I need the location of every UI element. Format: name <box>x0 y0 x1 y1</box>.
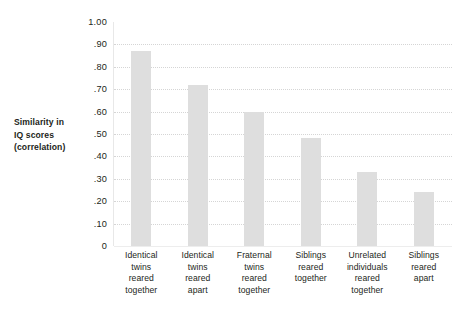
x-axis-label-line: Unrelated <box>339 250 395 262</box>
x-axis-category-label: Siblingsrearedtogether <box>283 250 339 285</box>
x-axis-label-line: reared <box>396 262 452 274</box>
x-axis-label-line: together <box>226 285 282 297</box>
x-axis-label-line: reared <box>283 262 339 274</box>
x-axis-category-label: Unrelatedindividualsrearedtogether <box>339 250 395 296</box>
x-axis-category-label: Identicaltwinsrearedapart <box>170 250 226 296</box>
x-axis-label-line: Siblings <box>283 250 339 262</box>
x-axis-label-line: reared <box>226 273 282 285</box>
y-axis-tick-label: .70 <box>0 84 107 94</box>
x-axis-label-line: individuals <box>339 262 395 274</box>
y-axis-tick-label: .30 <box>0 174 107 184</box>
y-axis-tick-label: 1.00 <box>0 17 107 27</box>
bar <box>244 112 264 246</box>
x-axis-category-label: Siblingsrearedapart <box>396 250 452 285</box>
y-axis-tick-label: .90 <box>0 39 107 49</box>
gridline <box>114 246 452 247</box>
y-axis-tick-label: .10 <box>0 219 107 229</box>
x-axis-label-line: apart <box>396 273 452 285</box>
bar <box>131 51 151 246</box>
x-axis-label-line: Identical <box>113 250 169 262</box>
y-axis-tick-labels: 1.00.90.80.70.60.50.40.30.20.100 <box>0 22 107 246</box>
bar <box>357 172 377 246</box>
bar <box>301 138 321 246</box>
y-axis-tick-label: 0 <box>0 241 107 251</box>
x-axis-label-line: twins <box>113 262 169 274</box>
x-axis-label-line: together <box>283 273 339 285</box>
bar-chart-figure: Similarity in IQ scores (correlation) 1.… <box>0 0 476 310</box>
y-axis-tick-label: .50 <box>0 129 107 139</box>
y-axis-tick-label: .80 <box>0 62 107 72</box>
x-axis-category-labels: IdenticaltwinsrearedtogetherIdenticaltwi… <box>113 250 452 308</box>
x-axis-label-line: twins <box>170 262 226 274</box>
x-axis-category-label: Fraternaltwinsrearedtogether <box>226 250 282 296</box>
y-axis-tick-label: .20 <box>0 196 107 206</box>
bar <box>188 85 208 246</box>
y-axis-tick-label: .40 <box>0 151 107 161</box>
x-axis-label-line: together <box>113 285 169 297</box>
x-axis-label-line: reared <box>339 273 395 285</box>
x-axis-label-line: Fraternal <box>226 250 282 262</box>
bar <box>414 192 434 246</box>
x-axis-label-line: Identical <box>170 250 226 262</box>
x-axis-label-line: reared <box>113 273 169 285</box>
x-axis-label-line: reared <box>170 273 226 285</box>
x-axis-label-line: twins <box>226 262 282 274</box>
x-axis-label-line: together <box>339 285 395 297</box>
x-axis-label-line: Siblings <box>396 250 452 262</box>
y-axis-tick-label: .60 <box>0 107 107 117</box>
bar-series <box>113 22 452 246</box>
x-axis-label-line: apart <box>170 285 226 297</box>
x-axis-category-label: Identicaltwinsrearedtogether <box>113 250 169 296</box>
